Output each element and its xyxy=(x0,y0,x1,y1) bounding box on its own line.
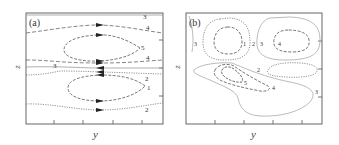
contour-label: 3 xyxy=(194,41,197,47)
contour-label: 1 xyxy=(243,41,246,47)
panel-b-plot: 3 1 2 3 4 2 5 4 3 (b) xyxy=(170,0,339,145)
panel-b: 3 1 2 3 4 2 5 4 3 (b) y z xyxy=(170,0,339,145)
contour-label: 5 xyxy=(141,44,145,52)
panel-a-plot: 3 4 5 4 3 2 1 2 (a) xyxy=(0,0,170,145)
contour-label: 3 xyxy=(260,41,263,47)
contour-label: 2 xyxy=(252,41,255,47)
contour-label: 4 xyxy=(146,24,150,32)
contour-label: 5 xyxy=(244,80,247,86)
y-axis-label-b: z xyxy=(172,65,182,69)
contour-label: 4 xyxy=(146,54,150,62)
panel-label-b: (b) xyxy=(189,17,201,29)
contour-label: 2 xyxy=(145,106,149,114)
panel-a: 3 4 5 4 3 2 1 2 (a) y z xyxy=(0,0,170,145)
y-axis-label-a: z xyxy=(12,65,22,69)
panel-label-a: (a) xyxy=(29,17,40,29)
contour-label: 3 xyxy=(315,89,318,95)
contour-label: 1 xyxy=(147,84,151,92)
x-axis-label-b: y xyxy=(251,128,256,140)
x-axis-label-a: y xyxy=(93,128,98,140)
contour-label: 3 xyxy=(53,62,57,70)
contour-label: 4 xyxy=(278,41,281,47)
contour-label: 3 xyxy=(143,13,147,21)
contour-label: 4 xyxy=(272,85,275,91)
contour-label: 2 xyxy=(257,67,260,73)
contour-label: 2 xyxy=(145,75,149,83)
